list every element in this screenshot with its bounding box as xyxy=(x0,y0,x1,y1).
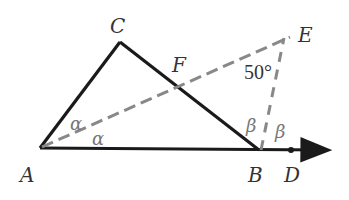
ray-ad xyxy=(40,148,326,150)
angle-e-label: 50° xyxy=(244,61,272,83)
angle-beta-right: β xyxy=(274,121,285,142)
angle-alpha-top: α xyxy=(70,113,82,134)
geometry-diagram: A B C D E F α α β β 50° xyxy=(0,0,349,200)
angle-beta-left: β xyxy=(245,115,256,136)
angle-alpha-bottom: α xyxy=(92,128,104,149)
label-c: C xyxy=(110,14,125,38)
point-d xyxy=(288,147,294,153)
label-f: F xyxy=(171,53,187,77)
label-b: B xyxy=(247,163,263,187)
label-a: A xyxy=(18,163,34,187)
segment-cb xyxy=(120,42,259,150)
label-d: D xyxy=(283,163,300,187)
label-e: E xyxy=(297,23,313,47)
